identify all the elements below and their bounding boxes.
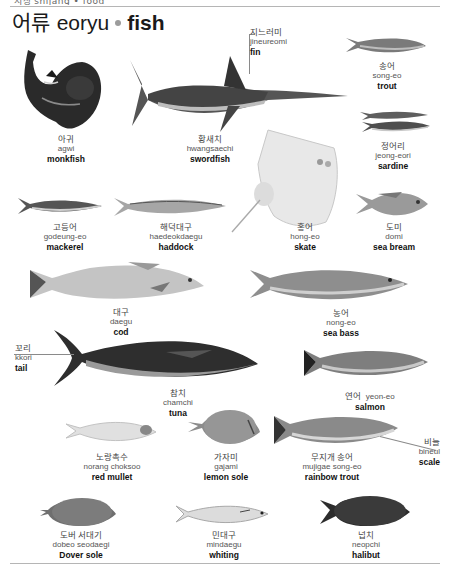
fish-label-dover-sole: 도버 서대기 dobeo seodaegi Dover sole [46, 530, 116, 560]
sea-bass-icon [250, 264, 408, 304]
fish-label-red-mullet: 노랑촉수 norang choksoo red mullet [72, 452, 152, 482]
fish-label-skate: 홍어 hong-eo skate [275, 222, 335, 252]
fish-label-whiting: 민대구 mindaegu whiting [194, 530, 254, 560]
scale-label: 비늘 bineul scale [400, 437, 440, 467]
running-head: 시장 shijang • food [14, 0, 134, 5]
fish-label-trout: 송어 song-eo trout [357, 61, 417, 91]
fish-label-lemon-sole: 가자미 gajami lemon sole [194, 452, 258, 482]
bottom-divider [10, 563, 440, 564]
sardine-icon [360, 110, 430, 134]
top-divider [10, 6, 440, 7]
haddock-icon [114, 196, 226, 218]
sea-bream-icon [356, 188, 428, 220]
dover-sole-icon [40, 496, 116, 528]
tuna-icon [52, 330, 258, 386]
fish-label-sea-bass: 농어 nong-eo sea bass [309, 308, 373, 338]
fish-label-salmon: 연어 yeon-eo salmon [330, 389, 410, 412]
fish-label-swordfish: 황새치 hwangsaechi swordfish [170, 134, 250, 164]
title-english: fish [127, 11, 164, 34]
fish-label-sea-bream: 도미 domi sea bream [362, 222, 426, 252]
page-title: 어류 eoryufish [12, 10, 165, 36]
cod-icon [30, 258, 204, 304]
tail-label: 꼬리 kkori tail [15, 343, 55, 373]
fish-label-halibut: 넙치 neopchi halibut [338, 530, 394, 560]
title-romanized: eoryu [57, 11, 110, 34]
monkfish-icon [16, 48, 104, 130]
bullet-icon [115, 20, 121, 26]
red-mullet-icon [66, 418, 156, 444]
fish-label-rainbow-trout: 무지개 송어 mujigae song-eo rainbow trout [282, 452, 382, 482]
fish-label-tuna: 참치 chamchi tuna [148, 388, 208, 418]
trout-icon [346, 34, 428, 56]
halibut-icon [320, 494, 410, 528]
salmon-icon [304, 346, 428, 380]
fish-label-haddock: 해덕대구 haedeokdaegu haddock [136, 222, 216, 252]
fish-label-cod: 대구 daegu cod [96, 307, 146, 337]
title-korean: 어류 [12, 11, 50, 35]
fish-label-mackerel: 고등어 godeung-eo mackerel [30, 222, 100, 252]
fish-label-sardine: 정어리 jeong-eori sardine [358, 141, 428, 171]
fin-label: 지느러미 jineureomi fin [250, 27, 310, 57]
whiting-icon [176, 502, 268, 526]
fish-label-monkfish: 아귀 agwi monkfish [36, 134, 96, 164]
rainbow-trout-icon [274, 412, 398, 448]
mackerel-icon [18, 196, 102, 216]
